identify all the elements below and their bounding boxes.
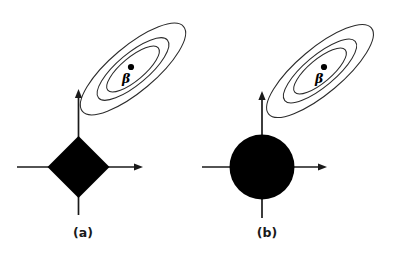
panel-a: β (a) (17, 9, 198, 240)
panel-caption-b: (b) (257, 225, 277, 240)
beta-hat-label-a: β (121, 71, 131, 86)
beta-hat-dot-a (128, 64, 134, 70)
figure-canvas: β (a) β (b) (0, 0, 399, 253)
x-axis-arrow-a (134, 163, 143, 170)
lasso-ridge-diagram: β (a) β (b) (0, 0, 399, 253)
beta-hat-label-b: β (314, 71, 324, 86)
y-axis-arrow-b (258, 91, 265, 100)
panel-caption-a: (a) (73, 225, 93, 240)
x-axis-arrow-b (318, 163, 327, 170)
y-axis-arrow-a (75, 89, 82, 98)
l1-constraint-diamond (48, 136, 110, 198)
beta-hat-dot-b (321, 64, 327, 70)
l2-constraint-circle (230, 135, 295, 200)
panel-b: β (b) (202, 11, 386, 240)
